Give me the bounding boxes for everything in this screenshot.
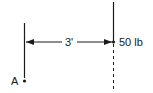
point-a-dot bbox=[23, 79, 26, 82]
force-point-dot bbox=[112, 40, 115, 43]
point-a-label: A bbox=[11, 75, 19, 87]
force-label: 50 lb bbox=[119, 36, 143, 48]
force-diagram: 3' 50 lb A bbox=[0, 0, 153, 93]
dimension-label: 3' bbox=[65, 36, 73, 48]
